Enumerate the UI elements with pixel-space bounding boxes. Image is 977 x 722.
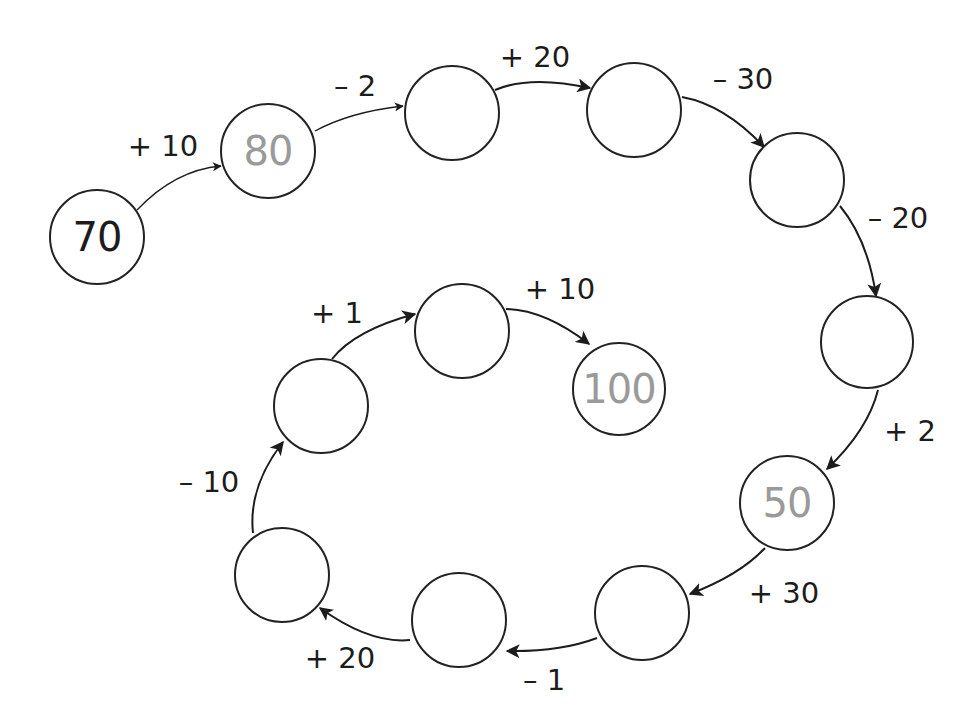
blank-number-circle[interactable] <box>586 62 682 158</box>
blank-number-circle[interactable] <box>749 132 845 228</box>
operation-label: + 30 <box>749 576 819 610</box>
arrow-9-to-10 <box>252 442 283 533</box>
operation-label: – 20 <box>868 201 929 235</box>
operation-label: + 1 <box>311 296 363 330</box>
circle-value: 100 <box>582 366 655 412</box>
blank-number-circle[interactable] <box>594 565 690 661</box>
operation-label: + 20 <box>305 641 375 675</box>
arrow-7-to-8 <box>507 638 597 651</box>
arrow-3-to-4 <box>682 97 764 147</box>
circle-value: 70 <box>73 214 122 260</box>
arrow-2-to-3 <box>495 82 590 90</box>
operation-label: + 20 <box>500 40 570 74</box>
blank-number-circle[interactable] <box>234 527 330 623</box>
number-circle-100: 100 <box>572 342 666 436</box>
blank-number-circle[interactable] <box>273 358 369 454</box>
operation-label: + 10 <box>525 272 595 306</box>
arrow-0-to-1 <box>137 166 221 210</box>
arrow-5-to-6 <box>827 390 878 469</box>
arrow-11-to-12 <box>506 309 589 344</box>
number-circle-50: 50 <box>739 455 835 551</box>
operation-label: + 2 <box>884 414 936 448</box>
blank-number-circle[interactable] <box>414 283 510 379</box>
operation-label: – 1 <box>523 663 565 697</box>
circle-value: 50 <box>763 480 812 526</box>
operation-label: + 10 <box>128 129 198 163</box>
arrow-8-to-9 <box>320 608 410 640</box>
number-circle-80: 80 <box>220 103 316 199</box>
circle-value: 80 <box>244 128 293 174</box>
operation-label: – 30 <box>713 62 774 96</box>
blank-number-circle[interactable] <box>820 295 914 389</box>
arrow-1-to-2 <box>315 106 403 131</box>
operation-label: – 2 <box>334 69 376 103</box>
number-circle-70: 70 <box>49 189 145 285</box>
operation-label: – 10 <box>179 465 240 499</box>
number-chain-diagram: 708050100 + 10– 2+ 20– 30– 20+ 2+ 30– 1+… <box>0 0 977 722</box>
blank-number-circle[interactable] <box>411 572 507 668</box>
blank-number-circle[interactable] <box>404 65 500 161</box>
